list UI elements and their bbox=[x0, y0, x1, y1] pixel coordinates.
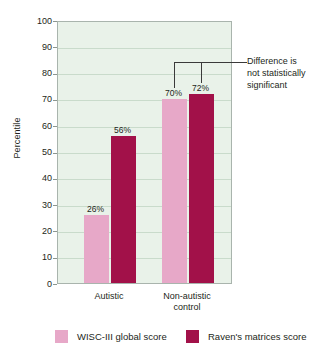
y-tick-label: 60 bbox=[12, 122, 52, 131]
y-tick-label: 90 bbox=[12, 43, 52, 52]
legend-swatch-raven-icon bbox=[186, 330, 199, 343]
bar-value-label: 72% bbox=[184, 84, 217, 93]
legend-swatch-wisc-icon bbox=[55, 330, 68, 343]
annotation-significance-note: Difference is not statistically signific… bbox=[247, 55, 323, 91]
y-tick-mark bbox=[53, 284, 57, 285]
legend-item-wisc: WISC-III global score bbox=[55, 330, 167, 343]
gridline bbox=[58, 74, 231, 75]
x-label-line: control bbox=[142, 302, 232, 313]
bar-chart-figure: Percentile 0102030405060708090100 26%56%… bbox=[0, 0, 323, 356]
plot-area bbox=[57, 21, 232, 284]
annotation-bracket-top bbox=[174, 62, 201, 63]
y-tick-label: 50 bbox=[12, 148, 52, 157]
y-axis-title: Percentile bbox=[12, 108, 22, 168]
chart-legend: WISC-III global score Raven's matrices s… bbox=[0, 330, 323, 350]
gridline bbox=[58, 48, 231, 49]
y-tick-label: 20 bbox=[12, 227, 52, 236]
x-label-line: Autistic bbox=[64, 291, 154, 302]
annotation-bracket-tick-left bbox=[174, 62, 175, 88]
bar-wisc-1 bbox=[162, 99, 187, 283]
y-tick-label: 70 bbox=[12, 95, 52, 104]
annotation-line-2: not statistically bbox=[247, 67, 323, 79]
bar-raven-1 bbox=[189, 94, 214, 283]
y-tick-label: 0 bbox=[12, 280, 52, 289]
x-axis-label-0: Autistic bbox=[64, 291, 154, 302]
bar-value-label: 26% bbox=[79, 205, 112, 214]
y-tick-label: 30 bbox=[12, 201, 52, 210]
x-axis-label-1: Non-autisticcontrol bbox=[142, 291, 232, 313]
annotation-leader-line bbox=[201, 62, 248, 63]
annotation-line-1: Difference is bbox=[247, 55, 323, 67]
y-tick-label: 40 bbox=[12, 174, 52, 183]
legend-item-raven: Raven's matrices score bbox=[186, 330, 306, 343]
x-label-line: Non-autistic bbox=[142, 291, 232, 302]
bar-value-label: 56% bbox=[106, 126, 139, 135]
y-tick-label: 80 bbox=[12, 69, 52, 78]
y-tick-label: 100 bbox=[12, 17, 52, 26]
y-tick-label: 10 bbox=[12, 253, 52, 262]
annotation-line-3: significant bbox=[247, 79, 323, 91]
bar-raven-0 bbox=[111, 136, 136, 283]
bar-wisc-0 bbox=[84, 215, 109, 283]
annotation-bracket-tick-right bbox=[201, 62, 202, 83]
legend-label-raven: Raven's matrices score bbox=[208, 330, 306, 343]
legend-label-wisc: WISC-III global score bbox=[77, 330, 167, 343]
